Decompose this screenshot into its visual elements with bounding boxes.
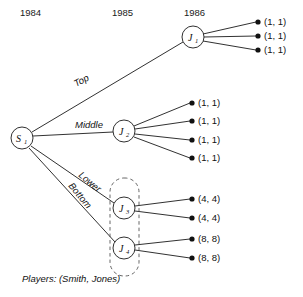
terminal-node[interactable]: (4, 4): [189, 212, 220, 223]
terminal-dot[interactable]: [189, 236, 194, 241]
node-label-s1-subscript: 1: [24, 138, 27, 145]
node-label-j1-subscript: 1: [195, 37, 198, 44]
edges-from-j4: [135, 239, 190, 258]
node-circle-s1[interactable]: [11, 127, 33, 149]
edge-label-top: Top: [72, 72, 91, 89]
terminal-dot[interactable]: [189, 100, 194, 105]
terminal-dot[interactable]: [189, 196, 194, 201]
node-j1[interactable]: J 1: [182, 26, 204, 48]
node-circle-j1[interactable]: [182, 26, 204, 48]
edges-from-j2: [134, 103, 190, 158]
terminal-node[interactable]: (1, 1): [255, 30, 286, 41]
terminal-node[interactable]: (8, 8): [189, 233, 220, 244]
payoff-label: (1, 1): [198, 152, 220, 163]
node-label-j3-letter: J: [119, 203, 124, 214]
edges-from-j1: [203, 22, 256, 50]
node-label-j2-letter: J: [119, 126, 124, 137]
terminal-node[interactable]: (4, 4): [189, 193, 220, 204]
information-set-oval: [110, 178, 139, 276]
edges-from-s1: [29, 42, 183, 242]
payoff-label: (1, 1): [198, 115, 220, 126]
node-label-s1-letter: S: [16, 133, 21, 144]
terminal-node[interactable]: (1, 1): [255, 16, 286, 27]
terminal-node[interactable]: (1, 1): [189, 97, 220, 108]
payoff-label: (1, 1): [264, 30, 286, 41]
terminal-dot[interactable]: [189, 118, 194, 123]
terminal-node[interactable]: (1, 1): [189, 115, 220, 126]
terminal-node[interactable]: (1, 1): [255, 44, 286, 55]
payoff-label: (8, 8): [198, 252, 220, 263]
node-j2[interactable]: J 2: [113, 120, 135, 142]
node-j4[interactable]: J 4: [113, 237, 135, 259]
node-circle-j2[interactable]: [113, 120, 135, 142]
edges-from-j3: [135, 199, 190, 218]
node-label-j1-letter: J: [188, 32, 193, 43]
edge-j3-terminal-1[interactable]: [135, 199, 190, 206]
terminal-node[interactable]: (8, 8): [189, 252, 220, 263]
edge-j2-terminal-3[interactable]: [135, 134, 190, 140]
edge-j4-terminal-2[interactable]: [135, 250, 190, 258]
diagram-canvas: 1984 1985 1986: [0, 0, 303, 297]
terminal-dot[interactable]: [189, 155, 194, 160]
node-circle-j4[interactable]: [113, 237, 135, 259]
terminal-dot[interactable]: [189, 255, 194, 260]
year-label-1986: 1986: [184, 7, 205, 18]
timeline-labels: 1984 1985 1986: [20, 7, 205, 18]
terminal-dot[interactable]: [255, 33, 260, 38]
figure-caption: Players: (Smith, Jones): [22, 273, 120, 284]
edge-j3-terminal-2[interactable]: [135, 211, 190, 218]
edge-j1-terminal-3[interactable]: [203, 41, 256, 50]
year-label-1985: 1985: [112, 7, 133, 18]
edge-j4-terminal-1[interactable]: [135, 239, 190, 245]
edge-label-middle: Middle: [75, 119, 103, 130]
terminal-node[interactable]: (1, 1): [189, 134, 220, 145]
node-label-j4-letter: J: [119, 243, 124, 254]
terminal-node[interactable]: (1, 1): [189, 152, 220, 163]
payoff-label: (4, 4): [198, 212, 220, 223]
edge-j2-terminal-4[interactable]: [134, 137, 190, 158]
terminal-dot[interactable]: [189, 137, 194, 142]
terminal-dot[interactable]: [255, 19, 260, 24]
payoff-label: (1, 1): [264, 16, 286, 27]
payoff-label: (8, 8): [198, 233, 220, 244]
edge-j1-terminal-1[interactable]: [203, 22, 256, 34]
terminal-nodes: (1, 1) (1, 1) (1, 1) (1, 1) (1, 1) (1, 1…: [189, 16, 286, 263]
node-s1[interactable]: S 1: [11, 127, 33, 149]
terminal-dot[interactable]: [189, 215, 194, 220]
edge-j1-terminal-2[interactable]: [204, 36, 256, 37]
payoff-label: (4, 4): [198, 193, 220, 204]
payoff-label: (1, 1): [198, 134, 220, 145]
node-j3[interactable]: J 3: [113, 197, 135, 219]
edge-s1-j2-middle[interactable]: [33, 132, 113, 136]
game-tree-figure: 1984 1985 1986: [0, 0, 303, 297]
terminal-dot[interactable]: [255, 47, 260, 52]
year-label-1984: 1984: [20, 7, 41, 18]
payoff-label: (1, 1): [198, 97, 220, 108]
node-circle-j3[interactable]: [113, 197, 135, 219]
payoff-label: (1, 1): [264, 44, 286, 55]
edge-s1-j1-top[interactable]: [32, 42, 183, 132]
